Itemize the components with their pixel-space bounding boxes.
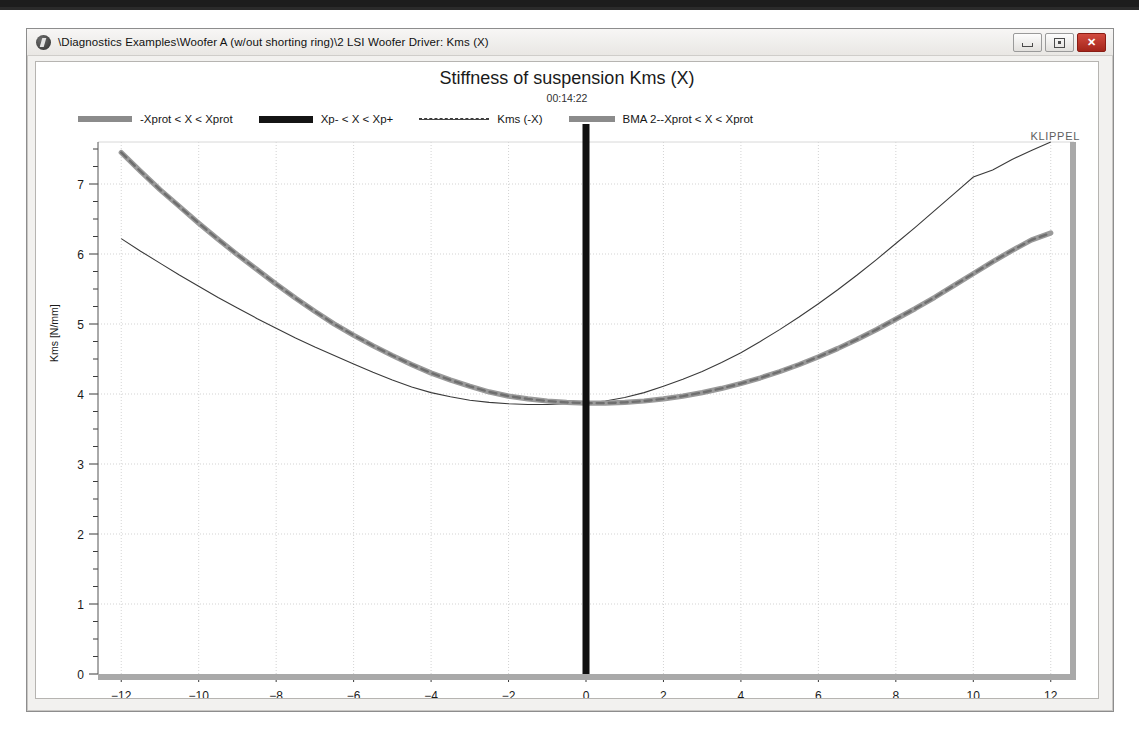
svg-text:2: 2 — [77, 528, 84, 542]
svg-text:5: 5 — [77, 318, 84, 332]
chart-window: \Diagnostics Examples\Woofer A (w/out sh… — [26, 28, 1114, 712]
svg-text:−8: −8 — [269, 689, 283, 698]
desktop-top-strip — [0, 0, 1139, 10]
svg-text:8: 8 — [892, 689, 899, 698]
svg-text:−2: −2 — [502, 689, 516, 698]
svg-text:4: 4 — [738, 689, 745, 698]
svg-text:1: 1 — [77, 598, 84, 612]
minimize-button[interactable] — [1013, 33, 1042, 52]
close-button[interactable]: ✕ — [1077, 33, 1106, 52]
svg-text:6: 6 — [815, 689, 822, 698]
svg-text:12: 12 — [1044, 689, 1058, 698]
window-controls: ✕ — [1013, 33, 1106, 52]
svg-text:−4: −4 — [424, 689, 438, 698]
window-titlebar[interactable]: \Diagnostics Examples\Woofer A (w/out sh… — [27, 29, 1113, 56]
svg-text:10: 10 — [967, 689, 981, 698]
svg-text:0: 0 — [77, 668, 84, 682]
svg-text:3: 3 — [77, 458, 84, 472]
svg-text:6: 6 — [77, 248, 84, 262]
window-title: \Diagnostics Examples\Woofer A (w/out sh… — [58, 36, 489, 48]
svg-text:2: 2 — [660, 689, 667, 698]
chart-canvas: Stiffness of suspension Kms (X) 00:14:22… — [35, 61, 1099, 699]
plot-svg: 01234567−12−10−8−6−4−2024681012 — [36, 62, 1098, 698]
maximize-button[interactable] — [1045, 33, 1074, 52]
svg-text:4: 4 — [77, 388, 84, 402]
svg-text:−6: −6 — [347, 689, 361, 698]
svg-text:−12: −12 — [111, 689, 132, 698]
svg-text:0: 0 — [583, 689, 590, 698]
svg-text:7: 7 — [77, 178, 84, 192]
app-globe-icon — [36, 35, 51, 50]
svg-text:−10: −10 — [189, 689, 210, 698]
desktop-top-strip-inner — [0, 0, 1139, 7]
